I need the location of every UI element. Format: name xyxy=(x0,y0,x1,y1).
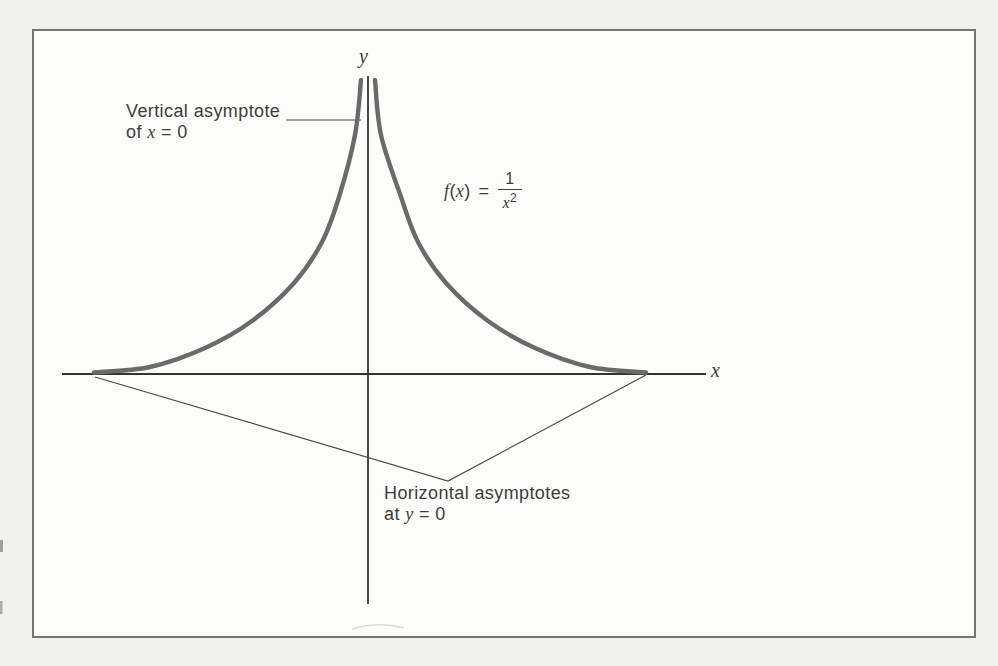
formula-lhs: f(x) xyxy=(444,181,471,202)
formula-arg: x xyxy=(456,181,464,201)
fraction-numerator: 1 xyxy=(498,170,521,189)
denominator-exponent: 2 xyxy=(510,191,517,205)
formula-close-paren: ) xyxy=(464,181,470,201)
horizontal-asymptote-line1: Horizontal asymptotes xyxy=(384,483,570,504)
figure-svg xyxy=(0,0,998,666)
print-artifact-arc xyxy=(352,625,404,629)
y-axis-label: y xyxy=(359,46,368,67)
x-axis-label: x xyxy=(711,360,720,381)
denominator-base: x xyxy=(503,195,511,212)
curve-right-branch xyxy=(375,80,646,373)
horizontal-asymptote-value: = 0 xyxy=(414,504,446,524)
vertical-asymptote-annotation: Vertical asymptote of x = 0 xyxy=(126,101,280,143)
horizontal-asymptote-line2: at y = 0 xyxy=(384,504,570,525)
vertical-asymptote-variable: x xyxy=(147,122,155,142)
function-formula: f(x) = 1 x2 xyxy=(444,170,522,213)
horizontal-asymptote-prefix: at xyxy=(384,504,405,524)
fraction-denominator: x2 xyxy=(498,189,523,213)
page-edge-artifact-2 xyxy=(0,601,3,614)
page-edge-artifact-1 xyxy=(0,540,3,552)
vertical-asymptote-line1: Vertical asymptote xyxy=(126,101,280,122)
vertical-asymptote-line2: of x = 0 xyxy=(126,122,280,143)
textbook-figure-page: y x Vertical asymptote of x = 0 f(x) = 1… xyxy=(0,0,998,666)
formula-equals: = xyxy=(479,181,490,202)
horizontal-asymptote-leader-lines xyxy=(95,375,646,481)
horizontal-asymptote-annotation: Horizontal asymptotes at y = 0 xyxy=(384,483,570,525)
formula-fraction: 1 x2 xyxy=(498,170,523,213)
horizontal-asymptote-variable: y xyxy=(405,504,413,524)
vertical-asymptote-value: = 0 xyxy=(156,122,188,142)
vertical-asymptote-prefix: of xyxy=(126,122,147,142)
